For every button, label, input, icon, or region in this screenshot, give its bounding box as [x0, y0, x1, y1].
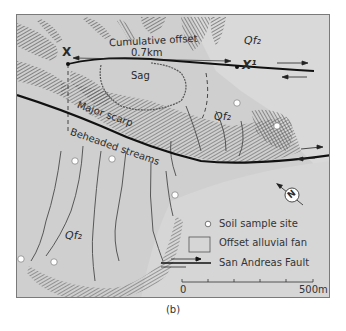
- qf2-label-top-right: Qf₂: [244, 35, 261, 46]
- map-frame: X X¹ Cumulative offset 0.7km Sag Major s…: [16, 14, 330, 298]
- legend-label-fault: San Andreas Fault: [219, 258, 309, 268]
- point-x-label: X: [62, 46, 71, 58]
- legend-fan-symbol: [189, 237, 210, 252]
- legend-label-offset-fan: Offset alluvial fan: [219, 238, 307, 248]
- offset-distance-label: 0.7km: [131, 48, 162, 58]
- qf2-label-bottom-left: Qf₂: [65, 230, 82, 241]
- point-x-prime-label: X¹: [242, 59, 257, 71]
- scale-end-label: 500m: [299, 285, 328, 295]
- sag-label: Sag: [131, 71, 150, 81]
- legend-circle-symbol: [205, 221, 211, 227]
- figure-caption: (b): [0, 304, 346, 315]
- scale-start-label: 0: [180, 285, 186, 295]
- legend-label-soil-sample: Soil sample site: [219, 219, 298, 229]
- qf2-label-middle: Qf₂: [214, 111, 231, 122]
